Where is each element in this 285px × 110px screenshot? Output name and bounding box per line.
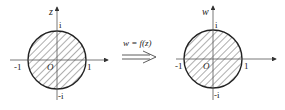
z-origin-label: O bbox=[47, 62, 54, 72]
w-origin-label: O bbox=[203, 61, 210, 71]
diagram-canvas: z i -i -1 1 O w = f(z) w i -i -1 1 O bbox=[0, 0, 285, 110]
w-tick-neg-imag: -i bbox=[214, 90, 220, 100]
arrow-head-icon bbox=[143, 51, 156, 63]
z-tick-neg-real: -1 bbox=[14, 62, 22, 72]
mapping-label: w = f(z) bbox=[123, 38, 152, 48]
z-tick-neg-imag: -i bbox=[58, 91, 64, 101]
z-axis-label: z bbox=[48, 6, 53, 17]
w-axis-label: w bbox=[202, 6, 209, 17]
z-tick-pos-imag: i bbox=[59, 20, 62, 30]
mapping-arrow: w = f(z) bbox=[122, 38, 156, 63]
w-tick-pos-imag: i bbox=[215, 20, 218, 30]
z-tick-pos-real: 1 bbox=[87, 62, 92, 72]
z-plane: z i -i -1 1 O bbox=[10, 6, 108, 101]
w-plane: w i -i -1 1 O bbox=[175, 6, 276, 100]
mapping-diagram: z i -i -1 1 O w = f(z) w i -i -1 1 O bbox=[0, 0, 285, 110]
w-tick-neg-real: -1 bbox=[175, 61, 183, 71]
w-tick-pos-real: 1 bbox=[244, 61, 249, 71]
